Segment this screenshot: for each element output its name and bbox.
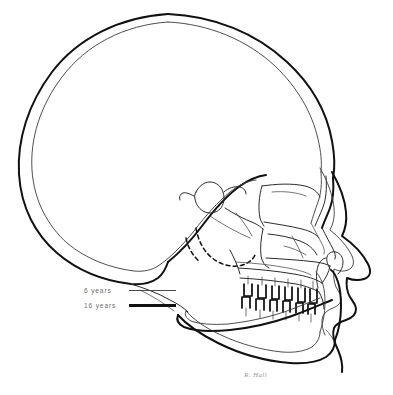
lower-dentition-group [242, 297, 315, 322]
nasal-septum-line [292, 236, 303, 258]
cranial-vault-posterior-16yr [168, 14, 334, 178]
cephalometric-tracing-figure: 6 years 16 years R. Hall [0, 0, 393, 395]
cranial-vault-outline-16yr [19, 14, 168, 284]
sphenoid-body-line [225, 208, 263, 229]
upper-canine [298, 288, 305, 302]
legend-row-16-years: 16 years [84, 298, 176, 313]
cranial-vault-posterior-6yr [168, 22, 321, 172]
orbital-rim-upper [262, 184, 320, 197]
legend-label-16-years: 16 years [84, 302, 129, 309]
upper-premolar-1 [272, 286, 279, 299]
orbital-floor [264, 222, 319, 238]
mandibular-ramus-posterior-16yr [331, 270, 341, 340]
soft-tissue-profile-16yr [332, 172, 370, 372]
upper-molar-1 [244, 284, 252, 296]
orbital-rim-lateral [259, 186, 264, 226]
legend-swatch-6-years [129, 290, 176, 291]
lower-molar-2 [256, 299, 264, 310]
upper-molar-2 [258, 285, 266, 298]
legend-row-6-years: 6 years [84, 283, 176, 298]
upper-dentition-group [244, 276, 317, 303]
sella-anterior-clinoid [180, 193, 194, 200]
maxillary-alveolar-process [319, 292, 324, 309]
sella-turcica-outline [195, 182, 224, 213]
orbital-inner-contour [272, 192, 306, 196]
inferior-concha [284, 246, 306, 255]
cranial-vault-outline-6yr [32, 22, 168, 271]
pterygomaxillary-fissure [261, 229, 269, 268]
lower-premolar-1 [270, 300, 277, 311]
artist-signature: R. Hall [244, 371, 267, 379]
mandible-inferior-border-16yr [178, 315, 335, 363]
anterior-cranial-base-16yr [168, 175, 266, 262]
legend-label-6-years: 6 years [84, 287, 129, 294]
upper-premolar-2 [285, 287, 292, 300]
dashed-palatal-outline [196, 228, 255, 266]
legend-swatch-16-years [129, 304, 176, 307]
growth-comparison-legend: 6 years 16 years [84, 283, 176, 313]
temporal-line [210, 216, 250, 238]
lower-molar-1 [242, 297, 250, 308]
hard-palate-superior-16yr [238, 268, 322, 283]
anterior-cranial-base-6yr [158, 180, 256, 266]
skull-tracing-svg [0, 0, 393, 395]
maxillary-anterior-border [322, 266, 330, 283]
frontal-bone-profile-16yr [322, 178, 333, 228]
